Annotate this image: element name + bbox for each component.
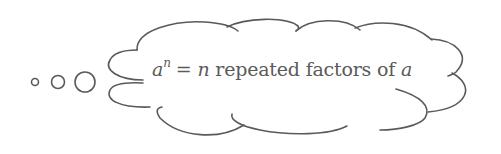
medium-bubble-icon [52, 76, 65, 89]
formula-text: an=n repeated factors of a [152, 58, 412, 80]
exponent: n [163, 56, 171, 70]
phrase-text: repeated factors of [209, 58, 400, 80]
count-variable: n [197, 58, 209, 80]
small-bubble-icon [32, 79, 39, 86]
target-variable: a [401, 58, 412, 80]
large-bubble-icon [75, 72, 95, 92]
base-variable: a [152, 58, 163, 80]
equals-sign: = [176, 58, 192, 80]
